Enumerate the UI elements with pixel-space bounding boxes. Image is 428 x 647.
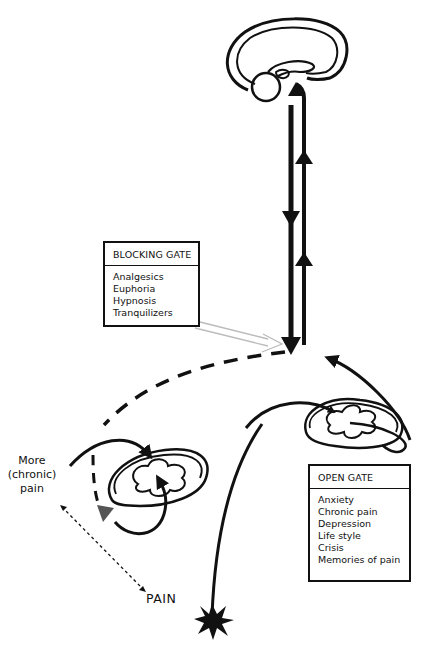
blocking-gate-item: Analgesics (113, 271, 190, 283)
afferent-fiber (246, 403, 334, 428)
starburst-icon (194, 604, 234, 640)
label-line: More (2, 454, 62, 468)
arrow-up-icon (295, 252, 313, 266)
light-arrow-icon (195, 321, 282, 352)
open-gate-item: Memories of pain (318, 554, 401, 566)
label-line: (chronic) (2, 468, 62, 482)
open-gate-item: Chronic pain (318, 506, 401, 518)
brain-sagittal-icon (227, 19, 347, 101)
open-gate-item: Depression (318, 518, 401, 530)
left-dashed-return (93, 455, 102, 512)
pain-label: PAIN (146, 592, 176, 606)
arrow-up-icon (295, 150, 313, 164)
blocking-gate-item: Hypnosis (113, 295, 190, 307)
blocking-gate-item: Tranquilizers (113, 307, 190, 319)
label-line: pain (2, 482, 62, 496)
open-gate-item: Crisis (318, 542, 401, 554)
open-gate-title: OPEN GATE (310, 466, 409, 489)
more-chronic-pain-label: More (chronic) pain (2, 454, 62, 496)
dashed-inhibition-path (104, 352, 285, 425)
blocking-gate-list: Analgesics Euphoria Hypnosis Tranquilize… (105, 266, 198, 327)
gray-arrow-icon (97, 505, 114, 522)
open-gate-box: OPEN GATE Anxiety Chronic pain Depressio… (308, 464, 411, 582)
pain-fiber (212, 424, 262, 616)
blocking-gate-box: BLOCKING GATE Analgesics Euphoria Hypnos… (103, 241, 200, 327)
open-gate-item: Anxiety (318, 494, 401, 506)
blocking-gate-title: BLOCKING GATE (105, 243, 198, 266)
arrow-down-icon (282, 211, 300, 227)
pathway-arrowheads (281, 82, 313, 355)
spinal-cord-section-icon (109, 449, 207, 506)
open-gate-item: Life style (318, 530, 401, 542)
open-gate-list: Anxiety Chronic pain Depression Life sty… (310, 489, 409, 574)
blocking-gate-item: Euphoria (113, 283, 190, 295)
